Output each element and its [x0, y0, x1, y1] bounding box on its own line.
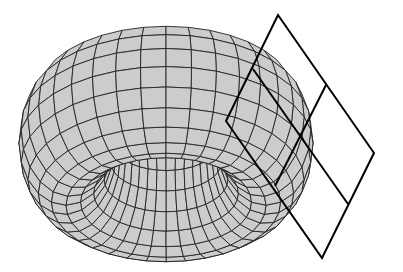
torus-mesh-cell — [116, 68, 141, 92]
torus-mesh-cell — [144, 127, 166, 144]
figure-canvas — [0, 0, 403, 272]
torus-mesh-cell — [166, 35, 191, 50]
torus-mesh-cell — [141, 49, 167, 68]
torus-mesh-cell — [190, 88, 216, 112]
torus-mesh-cell — [166, 127, 188, 144]
torus-mesh-cell — [188, 109, 213, 131]
torus-mesh-cell — [147, 169, 157, 191]
torus-mesh-cell — [166, 49, 192, 68]
torus-mesh-cell — [166, 170, 176, 191]
torus-mesh-cell — [175, 169, 185, 191]
torus-mesh-cell — [119, 109, 144, 131]
torus-mesh-cell — [166, 108, 190, 128]
torus-mesh-cell — [141, 67, 167, 89]
torus-mesh-cell — [166, 26, 190, 35]
torus-mesh-cell — [117, 88, 143, 112]
torus-mesh-cell — [146, 143, 166, 154]
torus-diagram — [0, 0, 403, 272]
torus-mesh-cell — [155, 191, 166, 212]
torus-mesh-cell — [166, 191, 177, 212]
torus-mesh-cell — [141, 35, 166, 50]
torus-mesh-cell — [142, 26, 166, 35]
torus-mesh-cell — [166, 87, 191, 109]
torus-mesh-cell — [141, 87, 166, 109]
torus-mesh-cell — [156, 170, 166, 191]
torus-mesh-cell — [166, 143, 186, 154]
torus-mesh-cell — [142, 108, 166, 128]
torus-surface — [19, 26, 313, 261]
torus-mesh-cell — [191, 68, 216, 92]
torus-mesh-cell — [166, 67, 192, 89]
